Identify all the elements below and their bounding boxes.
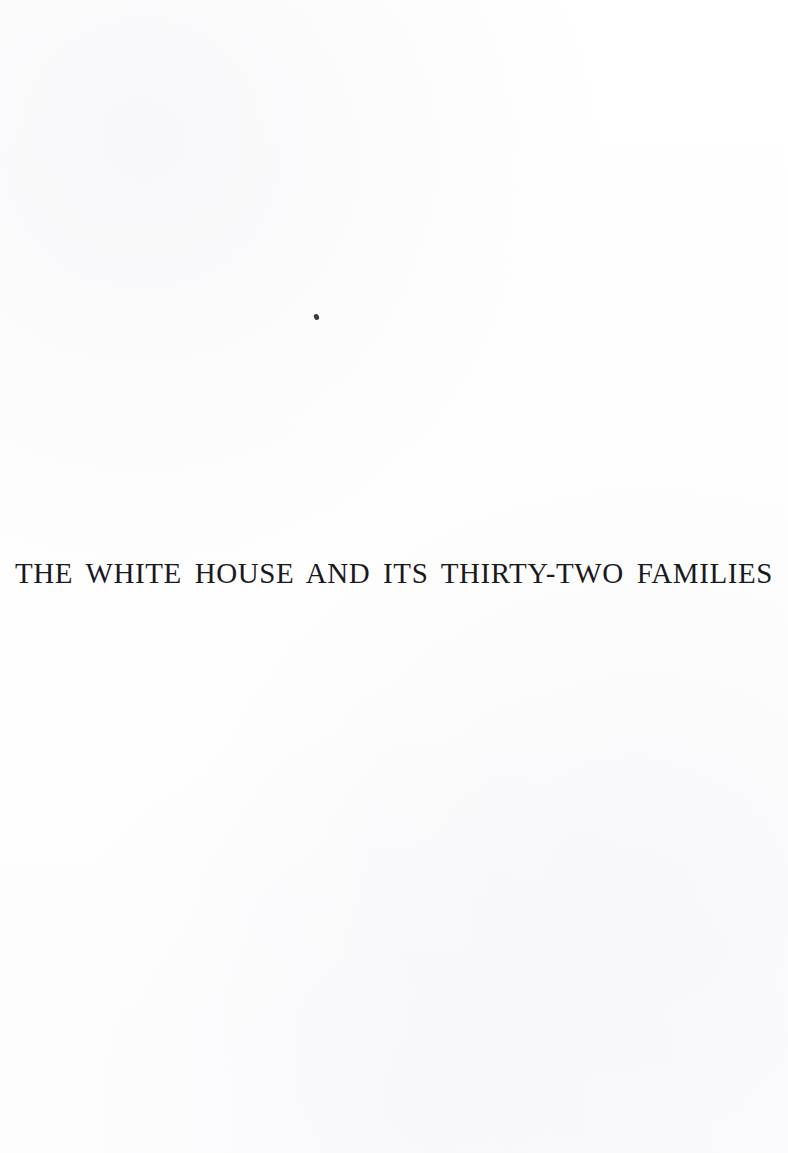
page-title: THE WHITE HOUSE AND ITS THIRTY-TWO FAMIL… (0, 556, 788, 590)
ink-speck-artifact (313, 313, 320, 320)
scanned-page: THE WHITE HOUSE AND ITS THIRTY-TWO FAMIL… (0, 0, 788, 1153)
